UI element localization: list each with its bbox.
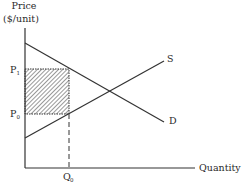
y-axis-label-unit: ($/unit) [3,13,39,24]
demand-label: D [169,115,177,126]
shaded-tax-region [25,69,69,114]
supply-demand-diagram: Price ($/unit) Quantity S D P 1 P 0 Q 0 [0,0,242,187]
svg-text:1: 1 [17,70,21,76]
x-axis-label: Quantity [199,162,241,173]
svg-text:0: 0 [17,114,21,120]
p0-label: P 0 [10,108,21,120]
q0-label: Q 0 [63,171,74,183]
supply-label: S [167,53,174,64]
y-axis-label-price: Price [12,0,37,11]
p1-label: P 1 [10,64,20,76]
svg-text:0: 0 [70,177,74,183]
